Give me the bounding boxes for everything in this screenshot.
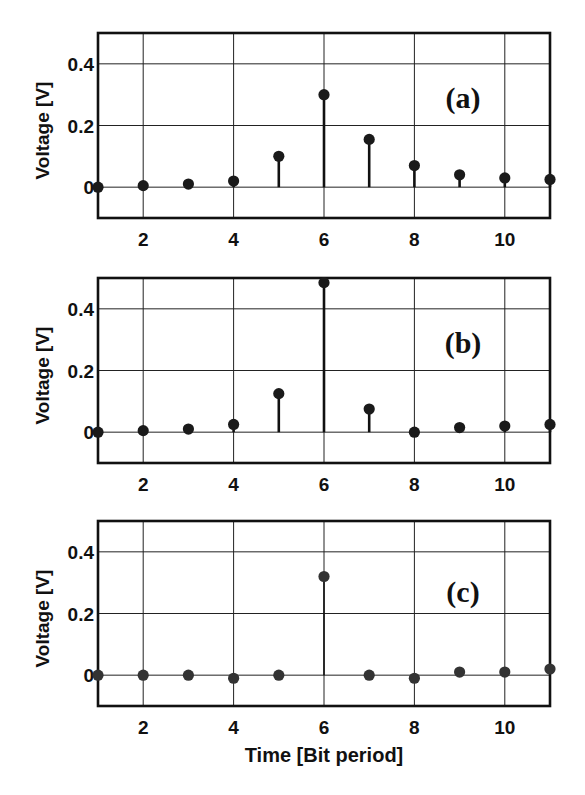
x-tick-label: 8 xyxy=(409,229,420,250)
x-tick-label: 10 xyxy=(494,717,515,738)
stem-marker xyxy=(409,160,420,171)
stem-marker xyxy=(409,673,420,684)
stem-marker xyxy=(499,420,510,431)
stem-plot-figure: 24681000.20.4Voltage [V](a) 24681000.20.… xyxy=(0,0,585,795)
x-tick-label: 4 xyxy=(228,229,239,250)
stem-marker xyxy=(364,670,375,681)
stem-marker xyxy=(454,169,465,180)
stem-marker xyxy=(544,663,555,674)
y-tick-label: 0.4 xyxy=(68,299,95,320)
stem-marker xyxy=(183,178,194,189)
stem-marker xyxy=(544,174,555,185)
stem-marker xyxy=(273,388,284,399)
x-tick-label: 2 xyxy=(138,717,149,738)
stem-marker xyxy=(273,670,284,681)
stem-marker xyxy=(228,175,239,186)
stem-marker xyxy=(499,666,510,677)
x-tick-label: 10 xyxy=(494,474,515,495)
stem-marker xyxy=(318,277,329,288)
x-tick-label: 8 xyxy=(409,717,420,738)
x-tick-label: 6 xyxy=(319,717,330,738)
x-tick-label: 4 xyxy=(228,717,239,738)
x-tick-label: 8 xyxy=(409,474,420,495)
x-tick-label: 2 xyxy=(138,229,149,250)
x-axis-label: Time [Bit period] xyxy=(245,744,404,766)
y-axis-label: Voltage [V] xyxy=(32,327,53,425)
x-tick-label: 4 xyxy=(228,474,239,495)
stem-marker xyxy=(409,427,420,438)
stem-marker xyxy=(454,422,465,433)
panel-a: 24681000.20.4Voltage [V](a) xyxy=(32,33,556,250)
stem-marker xyxy=(92,427,103,438)
stem-marker xyxy=(228,673,239,684)
stem-marker xyxy=(183,670,194,681)
y-tick-label: 0 xyxy=(83,665,94,686)
stem-marker xyxy=(318,89,329,100)
y-tick-label: 0.2 xyxy=(68,361,94,382)
y-tick-label: 0.4 xyxy=(68,54,95,75)
panel-label: (b) xyxy=(445,326,482,360)
stem-marker xyxy=(138,425,149,436)
stem-marker xyxy=(364,134,375,145)
panel-b: 24681000.20.4Voltage [V](b) xyxy=(32,277,556,495)
stem-marker xyxy=(364,403,375,414)
panel-c: 24681000.20.4Voltage [V]Time [Bit period… xyxy=(32,521,556,766)
stem-marker xyxy=(138,670,149,681)
x-tick-label: 2 xyxy=(138,474,149,495)
stem-marker xyxy=(318,571,329,582)
y-tick-label: 0.4 xyxy=(68,542,95,563)
y-axis-label: Voltage [V] xyxy=(32,570,53,668)
stem-marker xyxy=(273,151,284,162)
stem-marker xyxy=(92,182,103,193)
stem-marker xyxy=(499,172,510,183)
x-tick-label: 6 xyxy=(319,474,330,495)
x-tick-label: 10 xyxy=(494,229,515,250)
x-tick-label: 6 xyxy=(319,229,330,250)
stem-marker xyxy=(228,419,239,430)
y-axis-label: Voltage [V] xyxy=(32,82,53,180)
y-tick-label: 0.2 xyxy=(68,116,94,137)
y-tick-label: 0.2 xyxy=(68,604,94,625)
stem-marker xyxy=(92,670,103,681)
stem-marker xyxy=(183,423,194,434)
y-tick-label: 0 xyxy=(83,422,94,443)
panel-label: (a) xyxy=(446,81,481,115)
stem-marker xyxy=(138,180,149,191)
stem-marker xyxy=(544,419,555,430)
stem-marker xyxy=(454,666,465,677)
y-tick-label: 0 xyxy=(83,177,94,198)
panel-label: (c) xyxy=(446,575,479,609)
